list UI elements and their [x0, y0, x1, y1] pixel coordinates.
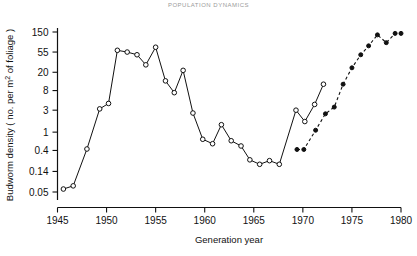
data-point-filled-circle: [367, 44, 371, 48]
chart-figure: POPULATION DYNAMICS 0.050.140.4138205515…: [0, 0, 417, 256]
data-point-open-circle: [115, 48, 120, 53]
data-point-open-circle: [163, 79, 168, 84]
data-point-open-circle: [172, 90, 177, 95]
data-point-open-circle: [191, 111, 196, 116]
y-axis-tick-label: 8: [43, 85, 49, 96]
data-point-open-circle: [257, 162, 262, 167]
x-axis-tick-label: 1950: [95, 215, 118, 226]
x-axis-title: Generation year: [195, 234, 263, 245]
x-axis-tick-label: 1970: [292, 215, 315, 226]
data-point-filled-circle: [323, 112, 327, 116]
data-point-filled-circle: [314, 128, 318, 132]
data-point-filled-circle: [350, 66, 354, 70]
data-point-filled-circle: [341, 82, 345, 86]
x-axis-ticks: [58, 208, 402, 213]
y-axis-tick-label: 0.14: [29, 166, 49, 177]
data-point-filled-circle: [359, 53, 363, 57]
series-lines: [63, 33, 401, 189]
data-point-open-circle: [106, 101, 111, 106]
data-point-open-circle: [135, 52, 140, 57]
data-point-open-circle: [229, 138, 234, 143]
x-axis-tick-label: 1965: [243, 215, 266, 226]
y-axis-tick-label: 1: [43, 127, 49, 138]
y-axis-ticks: [53, 32, 58, 192]
y-axis-tick-label: 20: [37, 67, 49, 78]
series-markers: [61, 31, 403, 191]
x-axis-tick-label: 1960: [194, 215, 217, 226]
data-point-open-circle: [200, 137, 205, 142]
y-axis-tick-labels: 0.050.140.41382055150: [29, 27, 49, 198]
x-axis-tick-label: 1975: [341, 215, 364, 226]
data-point-open-circle: [303, 119, 308, 124]
budworm-density-chart: 0.050.140.41382055150 194519501955196019…: [0, 0, 417, 256]
data-point-filled-circle: [302, 147, 306, 151]
x-axis-tick-label: 1955: [145, 215, 168, 226]
data-point-filled-circle: [384, 41, 388, 45]
series-line-0: [63, 47, 323, 189]
data-point-filled-circle: [332, 105, 336, 109]
data-point-open-circle: [153, 45, 158, 50]
data-point-open-circle: [71, 184, 76, 189]
data-point-filled-circle: [375, 33, 379, 37]
data-point-filled-circle: [393, 31, 397, 35]
data-point-open-circle: [85, 147, 90, 152]
data-point-open-circle: [61, 187, 66, 192]
data-point-open-circle: [321, 82, 326, 87]
data-point-filled-circle: [295, 147, 299, 151]
data-point-open-circle: [181, 68, 186, 73]
axes: [58, 28, 402, 208]
y-axis-title: Budworm density ( no. per m2 of foliage …: [4, 29, 16, 201]
data-point-open-circle: [125, 50, 130, 55]
data-point-open-circle: [97, 107, 102, 112]
series-line-1: [297, 33, 401, 149]
data-point-open-circle: [248, 158, 253, 163]
y-axis-tick-label: 3: [43, 105, 49, 116]
data-point-open-circle: [210, 141, 215, 146]
y-axis-tick-label: 0.05: [29, 187, 49, 198]
data-point-open-circle: [144, 63, 149, 68]
data-point-open-circle: [267, 158, 272, 163]
x-axis-tick-label: 1980: [390, 215, 413, 226]
data-point-open-circle: [294, 108, 299, 113]
x-axis-tick-labels: 19451950195519601965197019751980: [46, 215, 412, 226]
y-axis-tick-label: 0.4: [35, 145, 49, 156]
data-point-open-circle: [219, 122, 224, 127]
y-axis-tick-label: 55: [37, 47, 49, 58]
y-axis-title-suffix: of foliage ): [4, 29, 15, 76]
y-axis-tick-label: 150: [32, 27, 49, 38]
data-point-open-circle: [239, 144, 244, 149]
x-axis-tick-label: 1945: [46, 215, 69, 226]
data-point-filled-circle: [399, 31, 403, 35]
data-point-open-circle: [312, 102, 317, 107]
y-axis-title-prefix: Budworm density ( no. per m: [4, 80, 15, 202]
data-point-open-circle: [277, 162, 282, 167]
